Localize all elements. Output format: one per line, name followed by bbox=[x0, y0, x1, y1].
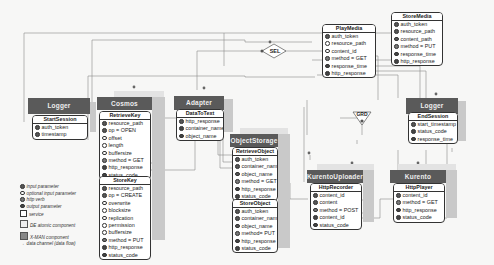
param-row: auth_token bbox=[392, 21, 442, 28]
service-name: HttpRecorder bbox=[311, 184, 361, 192]
service-name: RetrieveObject bbox=[233, 148, 277, 156]
interface-playmedia[interactable]: PlayMedia auth_token resource_path conte… bbox=[322, 24, 376, 78]
service-storekey[interactable]: StoreKey resource_path op = CREATE overw… bbox=[99, 176, 151, 260]
output-param-icon bbox=[102, 165, 107, 170]
service-name: StoreKey bbox=[100, 177, 150, 185]
component-title: Logger bbox=[28, 98, 90, 114]
optional-param-icon bbox=[102, 143, 107, 148]
input-param-icon bbox=[394, 37, 399, 42]
output-param-icon bbox=[313, 215, 318, 220]
param-row: method = GET bbox=[100, 157, 150, 164]
output-param-icon bbox=[235, 246, 240, 251]
output-param-icon bbox=[396, 215, 401, 220]
output-param-icon bbox=[102, 253, 107, 258]
grd-gate[interactable]: GRD bbox=[352, 110, 372, 126]
output-param-icon bbox=[325, 71, 330, 76]
param-row: http_response bbox=[100, 244, 150, 251]
param-row: response_time bbox=[392, 51, 442, 58]
service-storeobject[interactable]: StoreObject auth_token container_name ob… bbox=[232, 199, 278, 253]
arrow-icon: → bbox=[20, 241, 25, 246]
param-row: offset bbox=[100, 135, 150, 142]
interface-storemedia[interactable]: StoreMedia auth_token resource_path cont… bbox=[391, 12, 443, 66]
optional-param-icon bbox=[20, 191, 25, 196]
legend-item: DE atomic component bbox=[20, 220, 76, 229]
param-row: method = PUT bbox=[392, 43, 442, 50]
input-param-icon bbox=[35, 125, 40, 130]
param-row: start_timestamp bbox=[409, 121, 457, 128]
output-param-icon bbox=[235, 187, 240, 192]
component-logger-end[interactable]: Logger EndSession start_timestamp status… bbox=[406, 98, 458, 143]
param-row: content_id bbox=[323, 48, 375, 55]
param-row: http_response bbox=[323, 70, 375, 77]
param-row: object_name bbox=[177, 133, 223, 140]
param-row: buffersize bbox=[100, 150, 150, 157]
component-kurento-uploader[interactable]: KurentoUploader HttpRecorder content_id … bbox=[307, 170, 363, 225]
input-param-icon bbox=[235, 164, 240, 169]
service-datatotext[interactable]: DataToText http_response container_name … bbox=[176, 109, 224, 141]
service-name: EndSession bbox=[409, 113, 457, 121]
output-param-icon bbox=[394, 52, 399, 57]
service-name: StartSession bbox=[33, 116, 87, 124]
input-param-icon bbox=[235, 224, 240, 229]
param-row: http_response bbox=[394, 207, 444, 214]
optional-param-icon bbox=[102, 216, 107, 221]
component-objectstorage[interactable]: ObjectStorage RetrieveObject auth_token … bbox=[230, 134, 278, 252]
input-param-icon bbox=[235, 157, 240, 162]
component-cosmos[interactable]: Cosmos RetrieveKey resource_path op = OP… bbox=[97, 97, 152, 247]
service-httprecorder[interactable]: HttpRecorder content_id content method =… bbox=[310, 183, 362, 230]
http-verb-icon bbox=[235, 231, 240, 236]
interface-name: PlayMedia bbox=[323, 25, 375, 33]
input-param-icon bbox=[235, 209, 240, 214]
service-retrievekey[interactable]: RetrieveKey resource_path op = OPEN offs… bbox=[99, 111, 151, 180]
component-kurento[interactable]: Kurento HttpPlayer content_id method = G… bbox=[390, 170, 446, 220]
param-row: replication bbox=[100, 215, 150, 222]
service-startsession[interactable]: StartSession auth_token timestamp bbox=[32, 115, 88, 140]
input-param-icon bbox=[394, 22, 399, 27]
gate-label: GRD bbox=[356, 111, 367, 117]
param-row: http_response bbox=[392, 58, 442, 65]
output-param-icon bbox=[179, 126, 184, 131]
service-name: HttpPlayer bbox=[394, 184, 444, 192]
optional-param-icon bbox=[102, 151, 107, 156]
param-row: method = GET bbox=[233, 178, 277, 185]
component-adapter[interactable]: Adapter DataToText http_response contain… bbox=[174, 96, 224, 134]
param-row: auth_token bbox=[33, 124, 87, 131]
param-row: overwrite bbox=[100, 200, 150, 207]
param-row: object_name bbox=[233, 171, 277, 178]
http-verb-icon bbox=[235, 179, 240, 184]
service-box-icon bbox=[20, 210, 27, 217]
component-title: KurentoUploader bbox=[307, 170, 363, 183]
param-row: http_response bbox=[100, 164, 150, 171]
param-row: auth_token bbox=[323, 33, 375, 40]
interface-name: StoreMedia bbox=[392, 13, 442, 21]
optional-param-icon bbox=[102, 136, 107, 141]
component-title: Cosmos bbox=[97, 97, 152, 110]
param-row: status_code bbox=[409, 128, 457, 135]
component-logger-start[interactable]: Logger StartSession auth_token timestamp bbox=[28, 98, 90, 132]
input-param-icon bbox=[396, 193, 401, 198]
legend: input parameter optional input parameter… bbox=[20, 184, 76, 248]
output-param-icon bbox=[411, 129, 416, 134]
param-row: method = GET bbox=[323, 55, 375, 62]
output-param-icon bbox=[179, 134, 184, 139]
param-row: resource_path bbox=[100, 185, 150, 192]
output-param-icon bbox=[325, 64, 330, 69]
optional-param-icon bbox=[102, 208, 107, 213]
input-param-icon bbox=[102, 186, 107, 191]
param-row: content_id bbox=[311, 214, 361, 221]
optional-param-icon bbox=[102, 223, 107, 228]
service-retrieveobject[interactable]: RetrieveObject auth_token container_name… bbox=[232, 147, 278, 201]
optional-param-icon bbox=[325, 49, 330, 54]
service-httpplayer[interactable]: HttpPlayer content_id method = GET http_… bbox=[393, 183, 445, 223]
param-row: blocksize bbox=[100, 207, 150, 214]
param-row: status_code bbox=[311, 222, 361, 229]
service-endsession[interactable]: EndSession start_timestamp status_code r… bbox=[408, 112, 458, 144]
sel-gate[interactable]: SEL bbox=[262, 44, 288, 58]
component-title: Kurento bbox=[390, 170, 446, 183]
input-param-icon bbox=[102, 193, 107, 198]
component-title: ObjectStorage bbox=[230, 134, 278, 147]
param-row: permission bbox=[100, 222, 150, 229]
http-verb-icon bbox=[102, 238, 107, 243]
service-name: DataToText bbox=[177, 110, 223, 118]
input-param-icon bbox=[313, 200, 318, 205]
